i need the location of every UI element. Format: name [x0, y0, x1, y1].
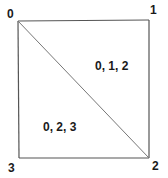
- vertex-label-1: 1: [150, 4, 157, 16]
- triangle-label-0-2-3: 0, 2, 3: [43, 121, 76, 133]
- vertex-label-2: 2: [152, 160, 159, 172]
- edge-0-1: [18, 20, 149, 21]
- triangulated-square-diagram: 0 1 2 3 0, 1, 2 0, 2, 3: [0, 0, 168, 178]
- edge-3-0: [18, 21, 19, 158]
- triangle-label-0-1-2: 0, 1, 2: [95, 60, 128, 72]
- edge-0-2-diagonal: [18, 21, 149, 158]
- vertex-label-0: 0: [7, 8, 14, 20]
- diagram-canvas: [0, 0, 168, 178]
- vertex-label-3: 3: [8, 162, 15, 174]
